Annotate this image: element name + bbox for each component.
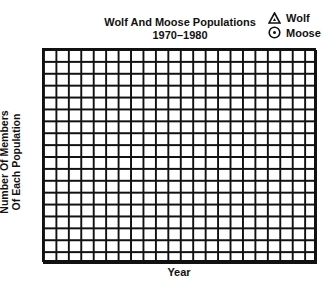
legend-item-wolf: Wolf (268, 10, 321, 25)
chart-title-line: Wolf And Moose Populations (100, 16, 260, 29)
y-axis-label-line2: Of Each Population (10, 92, 22, 232)
chart-subtitle: 1970–1980 (100, 29, 260, 42)
legend-item-moose: Moose (268, 25, 321, 40)
circle-dot-icon (268, 26, 281, 39)
legend-label: Moose (286, 27, 321, 39)
plot-grid (42, 48, 316, 262)
y-axis-label-line1: Number Of Members (0, 92, 10, 232)
legend-label: Wolf (286, 12, 310, 24)
triangle-icon (268, 12, 281, 24)
legend: Wolf Moose (268, 10, 321, 40)
y-axis-label: Number Of Members Of Each Population (0, 92, 22, 232)
chart-title: Wolf And Moose Populations 1970–1980 (100, 16, 260, 42)
x-axis-label: Year (42, 266, 316, 278)
